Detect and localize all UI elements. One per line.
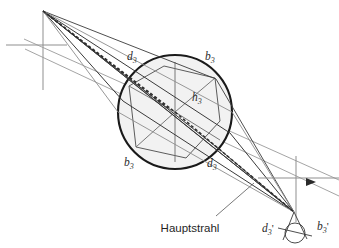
diagram-canvas: d3 b3 h3 b3 d3 d3' b3' Hauptstrahl (0, 0, 339, 248)
optical-ray-diagram: d3 b3 h3 b3 d3 d3' b3' Hauptstrahl (0, 0, 339, 248)
annotation-hauptstrahl: Hauptstrahl (161, 222, 220, 234)
